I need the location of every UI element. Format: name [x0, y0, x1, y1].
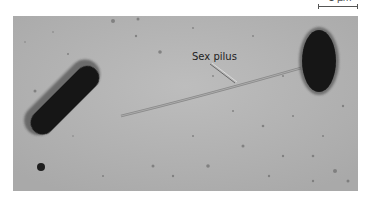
scale-bar: [318, 6, 358, 7]
micrograph-image: [13, 16, 358, 191]
sex-pilus-label: Sex pilus: [192, 51, 237, 62]
scale-label: 1 µm: [322, 0, 358, 3]
